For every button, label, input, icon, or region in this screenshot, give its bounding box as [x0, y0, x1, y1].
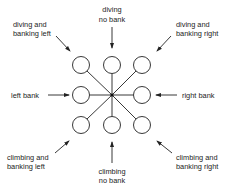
label-climbing-banking-right-line1: climbing and [176, 153, 218, 162]
spoke-lower-right [112, 95, 136, 119]
label-diving-banking-right-line1: diving and [176, 20, 210, 29]
arrow-diving-banking-left-icon [56, 36, 70, 51]
circle-middle-left [73, 87, 90, 104]
circle-middle-right [134, 87, 151, 104]
circle-lower-right [134, 117, 151, 134]
label-climbing-no-bank-line2: no bank [99, 176, 126, 185]
spoke-upper-left [87, 71, 112, 95]
label-diving-no-bank-line2: no bank [99, 15, 126, 24]
label-diving-no-bank-line1: diving [102, 5, 121, 14]
circle-upper-left [73, 57, 90, 74]
label-climbing-no-bank-line1: climbing [98, 167, 125, 176]
center-point [110, 93, 113, 96]
arrow-diving-banking-right-icon [157, 36, 171, 51]
spoke-upper-right [112, 71, 136, 95]
label-diving-banking-left-line1: diving and [13, 20, 47, 29]
arrow-climbing-banking-left-icon [55, 141, 69, 153]
circle-upper-right [134, 57, 151, 74]
circle-upper-center [104, 57, 121, 74]
label-diving-banking-left-line2: banking left [13, 29, 51, 38]
attitude-diagram: diving no bank diving and banking left d… [0, 0, 229, 186]
label-diving-banking-right-line2: banking right [176, 29, 218, 38]
label-climbing-banking-left-line1: climbing and [7, 153, 49, 162]
circle-lower-left [73, 117, 90, 134]
label-climbing-banking-left-line2: banking left [7, 162, 45, 171]
label-right-bank: right bank [182, 91, 215, 100]
label-left-bank: left bank [11, 91, 39, 100]
arrow-climbing-banking-right-icon [157, 141, 172, 153]
label-climbing-banking-right-line2: banking right [176, 162, 218, 171]
circle-lower-center [104, 117, 121, 134]
spoke-lower-left [87, 95, 112, 119]
